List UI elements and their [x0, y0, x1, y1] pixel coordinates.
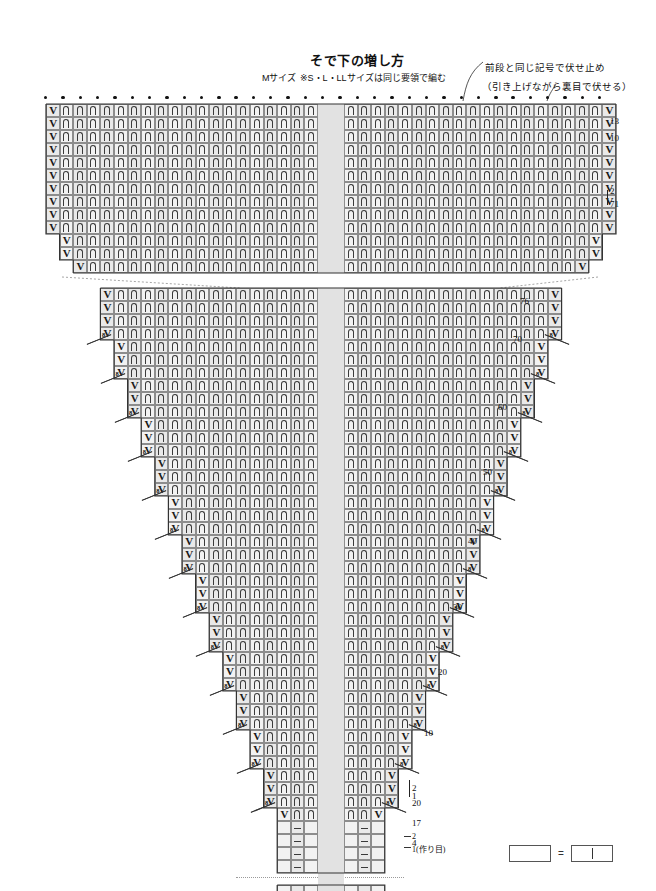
twisted-stitch-icon [281, 249, 287, 258]
twisted-stitch-icon [308, 758, 314, 767]
twisted-stitch-icon [511, 407, 517, 416]
twisted-stitch-icon [361, 615, 367, 624]
twisted-stitch-icon [281, 446, 287, 455]
twisted-stitch-icon [213, 485, 219, 494]
twisted-stitch-icon [375, 223, 381, 232]
twisted-stitch-icon [388, 524, 394, 533]
twisted-stitch-icon [199, 472, 205, 481]
twisted-stitch-icon [158, 342, 164, 351]
increase-stitch-icon: V [253, 731, 261, 742]
row-number-label: 10 [610, 133, 619, 143]
twisted-stitch-icon [199, 145, 205, 154]
twisted-stitch-icon [443, 381, 449, 390]
twisted-stitch-icon [456, 459, 462, 468]
twisted-stitch-icon [538, 249, 544, 258]
twisted-stitch-icon [511, 316, 517, 325]
twisted-stitch-icon [497, 119, 503, 128]
twisted-stitch-icon [388, 236, 394, 245]
twisted-stitch-icon [416, 316, 422, 325]
twisted-stitch-icon [484, 316, 490, 325]
twisted-stitch-icon [294, 223, 300, 232]
twisted-stitch-icon [77, 197, 83, 206]
twisted-stitch-icon [538, 290, 544, 299]
twisted-stitch-icon [524, 210, 530, 219]
twisted-stitch-icon [552, 249, 558, 258]
twisted-stitch-icon [240, 524, 246, 533]
twisted-stitch-icon [308, 355, 314, 364]
twisted-stitch-icon [281, 511, 287, 520]
twisted-stitch-icon [348, 680, 354, 689]
twisted-stitch-icon [388, 171, 394, 180]
twisted-stitch-icon [484, 420, 490, 429]
twisted-stitch-icon [511, 303, 517, 312]
bind-off-dot [581, 96, 584, 99]
twisted-stitch-icon [281, 537, 287, 546]
twisted-stitch-icon [361, 223, 367, 232]
twisted-stitch-icon [470, 511, 476, 520]
twisted-stitch-icon [240, 381, 246, 390]
twisted-stitch-icon [90, 197, 96, 206]
twisted-stitch-icon [361, 210, 367, 219]
twisted-stitch-icon [497, 210, 503, 219]
twisted-stitch-icon [240, 511, 246, 520]
twisted-stitch-icon [429, 615, 435, 624]
increase-stitch-icon: V [49, 157, 57, 168]
twisted-stitch-icon [254, 537, 260, 546]
twisted-stitch-icon [348, 537, 354, 546]
twisted-stitch-icon [145, 262, 151, 271]
twisted-stitch-icon [388, 145, 394, 154]
twisted-stitch-icon [388, 758, 394, 767]
twisted-stitch-icon [538, 132, 544, 141]
twisted-stitch-icon [254, 158, 260, 167]
twisted-stitch-icon [375, 472, 381, 481]
bind-off-dot [269, 96, 272, 99]
increase-stitch-icon: V [606, 144, 614, 155]
bind-off-dot [563, 96, 566, 99]
twisted-stitch-icon [281, 758, 287, 767]
twisted-stitch-icon [281, 589, 287, 598]
twisted-stitch-icon [388, 290, 394, 299]
twisted-stitch-icon [375, 537, 381, 546]
twisted-stitch-icon [267, 420, 273, 429]
twisted-stitch-icon [294, 119, 300, 128]
twisted-stitch-icon [402, 459, 408, 468]
twisted-stitch-icon [456, 223, 462, 232]
twisted-stitch-icon [388, 433, 394, 442]
twisted-stitch-icon [456, 119, 462, 128]
twisted-stitch-icon [172, 485, 178, 494]
twisted-stitch-icon [348, 290, 354, 299]
twisted-stitch-icon [131, 171, 137, 180]
twisted-stitch-icon [375, 342, 381, 351]
twisted-stitch-icon [416, 145, 422, 154]
bind-off-dot [546, 96, 549, 99]
twisted-stitch-icon [158, 394, 164, 403]
twisted-stitch-icon [172, 249, 178, 258]
twisted-stitch-icon [511, 210, 517, 219]
row-number-label: 2 [610, 186, 615, 196]
twisted-stitch-icon [497, 290, 503, 299]
increase-stitch-icon: V [551, 302, 559, 313]
twisted-stitch-icon [361, 550, 367, 559]
twisted-stitch-icon [213, 446, 219, 455]
increase-stitch-icon: V [63, 235, 71, 246]
twisted-stitch-icon [199, 158, 205, 167]
twisted-stitch-icon [172, 381, 178, 390]
increase-stitch-icon: V [497, 458, 505, 469]
twisted-stitch-icon [456, 303, 462, 312]
twisted-stitch-icon [308, 381, 314, 390]
twisted-stitch-icon [429, 249, 435, 258]
increase-stitch-icon: V [185, 549, 193, 560]
twisted-stitch-icon [281, 615, 287, 624]
twisted-stitch-icon [470, 329, 476, 338]
bind-off-dot [96, 96, 99, 99]
twisted-stitch-icon [131, 316, 137, 325]
twisted-stitch-icon [267, 290, 273, 299]
stitch-cell [371, 834, 385, 847]
twisted-stitch-icon [226, 394, 232, 403]
twisted-stitch-icon [375, 654, 381, 663]
twisted-stitch-icon [511, 368, 517, 377]
increase-stitch-icon: V [226, 653, 234, 664]
twisted-stitch-icon [172, 329, 178, 338]
twisted-stitch-icon [267, 589, 273, 598]
twisted-stitch-icon [294, 511, 300, 520]
